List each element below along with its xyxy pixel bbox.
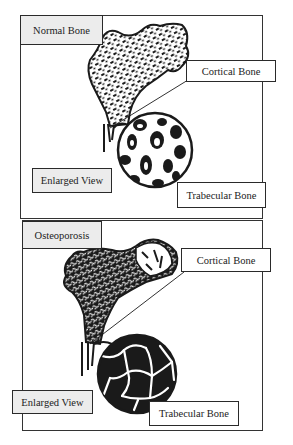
- normal-bone-title: Normal Bone: [20, 15, 103, 45]
- enlarged-view-label-bottom: Enlarged View: [12, 390, 93, 414]
- enlarged-view-label-top: Enlarged View: [32, 168, 112, 193]
- trabecular-bone-label-top: Trabecular Bone: [177, 182, 266, 208]
- normal-trabecular-circle: [118, 113, 192, 187]
- cortical-bone-label-top: Cortical Bone: [186, 60, 276, 82]
- osteoporosis-title: Osteoporosis: [22, 221, 102, 249]
- cortical-bone-label-bottom: Cortical Bone: [181, 248, 271, 272]
- trabecular-bone-label-bottom: Trabecular Bone: [149, 401, 239, 426]
